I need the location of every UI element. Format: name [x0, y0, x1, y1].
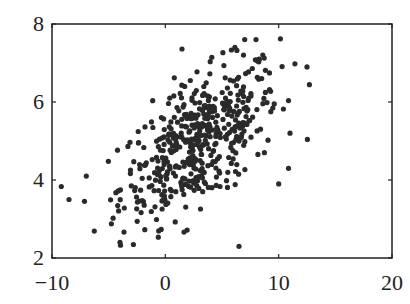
- data-point: [156, 144, 161, 149]
- data-point: [179, 46, 184, 51]
- data-point: [198, 158, 203, 163]
- data-point: [221, 63, 226, 68]
- data-point: [179, 184, 184, 189]
- data-point: [164, 171, 169, 176]
- data-point: [206, 146, 211, 151]
- data-point: [172, 115, 177, 120]
- scatter-chart: −1001020 2468: [0, 0, 410, 304]
- data-point: [218, 131, 223, 136]
- data-point: [150, 98, 155, 103]
- data-point: [225, 85, 230, 90]
- data-point: [160, 166, 165, 171]
- data-point: [222, 126, 227, 131]
- data-point: [171, 93, 176, 98]
- data-point: [159, 115, 164, 120]
- data-point: [232, 129, 237, 134]
- data-point: [260, 101, 265, 106]
- data-point: [207, 71, 212, 76]
- data-point: [181, 192, 186, 197]
- data-point: [144, 160, 149, 165]
- data-point: [153, 178, 158, 183]
- y-tick-label: 6: [33, 89, 44, 114]
- data-point: [258, 127, 263, 132]
- data-point: [117, 240, 122, 245]
- data-point: [167, 124, 172, 129]
- data-point: [115, 203, 120, 208]
- data-point: [188, 78, 193, 83]
- data-point: [156, 235, 161, 240]
- data-point: [206, 185, 211, 190]
- data-point: [162, 142, 167, 147]
- data-point: [229, 114, 234, 119]
- data-point: [82, 199, 87, 204]
- data-point: [242, 167, 247, 172]
- data-point: [128, 167, 133, 172]
- data-point: [220, 90, 225, 95]
- data-point: [66, 197, 71, 202]
- data-point: [240, 100, 245, 105]
- data-point: [121, 230, 126, 235]
- data-point: [228, 91, 233, 96]
- data-point: [134, 206, 139, 211]
- y-tick-label: 8: [33, 11, 44, 36]
- data-point: [286, 98, 291, 103]
- data-point: [156, 188, 161, 193]
- axis-ticks: [52, 24, 392, 258]
- data-point: [200, 189, 205, 194]
- data-point: [270, 105, 275, 110]
- data-point: [199, 152, 204, 157]
- x-tick-label: 10: [268, 270, 290, 295]
- data-point: [172, 75, 177, 80]
- data-point: [211, 149, 216, 154]
- data-point: [193, 175, 198, 180]
- data-point: [157, 172, 162, 177]
- data-point: [234, 48, 239, 53]
- data-point: [237, 126, 242, 131]
- data-point: [173, 189, 178, 194]
- data-point: [202, 91, 207, 96]
- data-point: [154, 217, 159, 222]
- data-point: [233, 182, 238, 187]
- data-point: [281, 106, 286, 111]
- data-point: [189, 98, 194, 103]
- data-point: [115, 148, 120, 153]
- data-point: [243, 106, 248, 111]
- data-point: [183, 140, 188, 145]
- data-point: [109, 221, 114, 226]
- data-point: [149, 209, 154, 214]
- data-point: [206, 98, 211, 103]
- data-point: [228, 78, 233, 83]
- data-point: [136, 129, 141, 134]
- data-point: [59, 184, 64, 189]
- data-point: [236, 244, 241, 249]
- data-point: [202, 103, 207, 108]
- data-point: [286, 166, 291, 171]
- data-point: [242, 37, 247, 42]
- data-point: [192, 188, 197, 193]
- data-point: [254, 107, 259, 112]
- data-point: [155, 159, 160, 164]
- data-point: [181, 102, 186, 107]
- data-point: [193, 166, 198, 171]
- data-point: [167, 166, 172, 171]
- data-point: [220, 117, 225, 122]
- data-point: [188, 171, 193, 176]
- data-point: [209, 162, 214, 167]
- data-point: [226, 155, 231, 160]
- data-point: [152, 188, 157, 193]
- data-point: [250, 66, 255, 71]
- data-point: [179, 117, 184, 122]
- data-point: [136, 140, 141, 145]
- data-point: [223, 96, 228, 101]
- data-point: [268, 89, 273, 94]
- data-point: [84, 174, 89, 179]
- data-point: [137, 162, 142, 167]
- data-point: [127, 140, 132, 145]
- data-point: [159, 227, 164, 232]
- data-point: [220, 50, 225, 55]
- data-point: [183, 205, 188, 210]
- data-point: [183, 124, 188, 129]
- data-point: [199, 173, 204, 178]
- data-point: [134, 194, 139, 199]
- data-point: [256, 59, 261, 64]
